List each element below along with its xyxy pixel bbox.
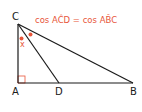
vertex-label-a: A: [12, 86, 19, 97]
vertex-label-d: D: [55, 86, 63, 97]
vertex-label-b: B: [130, 86, 137, 97]
side-cb: [18, 24, 133, 83]
right-angle-marker: [18, 76, 25, 83]
angle-label-x: x: [20, 40, 25, 49]
equation-left: cos AĈD: [35, 15, 70, 25]
equation-equals: =: [73, 15, 80, 25]
segment-cd: [18, 24, 59, 83]
equation-right: cos AB̂C: [83, 15, 118, 25]
vertex-label-c: C: [12, 11, 19, 22]
angle-mark-dcb-dot: [29, 33, 33, 37]
equation: cos AĈD = cos AB̂C: [35, 15, 117, 25]
